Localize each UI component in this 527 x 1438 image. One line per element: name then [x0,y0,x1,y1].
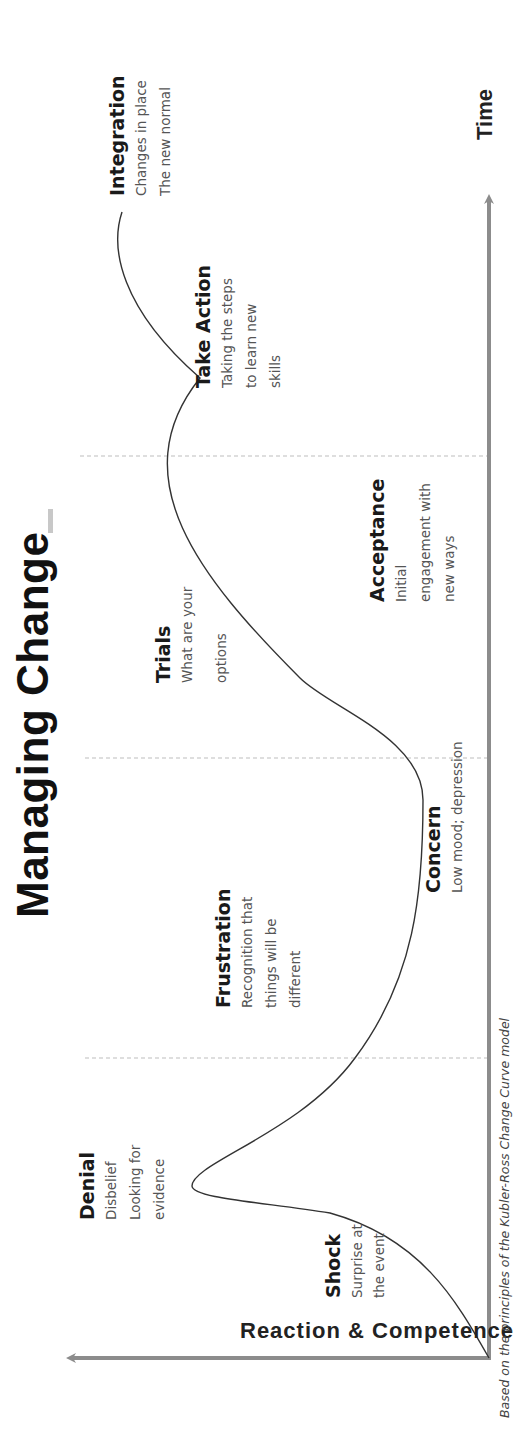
stage-desc-line: new ways [436,479,462,602]
stage-name: Acceptance [366,479,388,602]
chart-graphics [0,0,527,1438]
stage-desc-line: Initial [388,479,414,602]
stage-desc-line: the event [366,1224,392,1298]
stage-desc-line: engagement with [412,479,438,602]
stage-acceptance: Acceptance Initial engagement with new w… [366,479,462,602]
stage-desc-line: options [208,587,234,683]
stage-desc-line: Recognition that [234,889,260,1008]
stage-desc-line: Changes in place [128,75,154,196]
page-title: Managing Change [8,532,58,918]
stage-shock: Shock Surprise at the event [322,1224,392,1298]
stage-desc-line: Taking the steps [214,265,240,388]
change-curve-diagram: Managing Change Shock Surprise at the ev… [0,0,527,1438]
stage-denial: Denial Disbelief Looking for evidence [76,1145,172,1220]
stage-name: Shock [322,1224,344,1298]
stage-name: Denial [76,1145,98,1220]
stage-name: Trials [152,587,174,683]
stage-name: Take Action [192,265,214,388]
stage-take-action: Take Action Taking the steps to learn ne… [192,265,288,388]
stage-trials: Trials What are your options [152,587,234,683]
stage-desc-line: Disbelief [98,1145,124,1220]
stage-name: Integration [106,75,128,196]
stage-desc-line: The new normal [152,75,178,196]
stage-desc-line: Looking for [122,1145,148,1220]
stage-name: Frustration [212,889,234,1008]
stage-frustration: Frustration Recognition that things will… [212,889,308,1008]
footnote: Based on the principles of the Kubler-Ro… [497,1018,512,1418]
stage-desc-line: evidence [146,1145,172,1220]
y-axis-label: Reaction & Competence [240,1318,514,1344]
stage-desc-line: Low mood; depression [444,741,470,893]
stage-name: Concern [422,741,444,893]
stage-desc-line: skills [262,265,288,388]
stage-integration: Integration Changes in place The new nor… [106,75,178,196]
stage-desc-line: to learn new [238,265,264,388]
stage-concern: Concern Low mood; depression [422,741,470,893]
stage-desc-line: things will be [258,889,284,1008]
stage-desc-line: different [282,889,308,1008]
stage-desc-line: What are your [174,587,200,683]
title-accent-bar [48,509,53,533]
x-axis-label: Time [472,89,498,140]
